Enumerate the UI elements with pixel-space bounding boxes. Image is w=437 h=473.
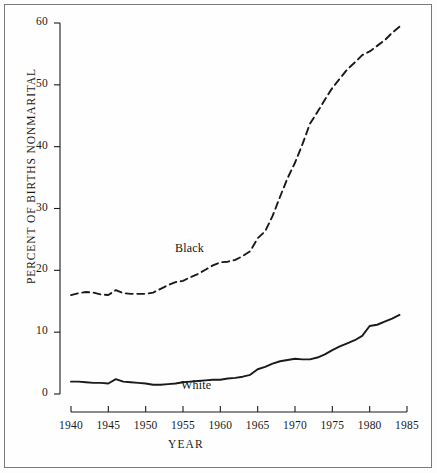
x-tick-label: 1975 [312,419,352,431]
x-tick-label: 1980 [350,419,390,431]
x-tick-label: 1940 [51,419,91,431]
x-axis-title: YEAR [168,438,204,450]
y-tick-label: 10 [18,324,48,336]
x-tick-label: 1970 [275,419,315,431]
figure-canvas: 0102030405060 19401945195019551960196519… [0,0,437,473]
line-chart-plot [0,0,437,473]
axis-lines [54,23,407,412]
x-tick-label: 1960 [200,419,240,431]
y-axis-title: PERCENT OF BIRTHS NONMARITAL [25,61,37,291]
y-tick-label: 0 [18,386,48,398]
series-line-white [71,315,400,385]
series-label-white: White [181,378,211,393]
x-tick-label: 1945 [88,419,128,431]
x-tick-label: 1965 [238,419,278,431]
series-line-black [71,27,400,295]
x-tick-label: 1950 [126,419,166,431]
series-lines [71,27,400,385]
x-tick-label: 1955 [163,419,203,431]
y-tick-label: 60 [18,15,48,27]
series-label-black: Black [175,241,204,256]
x-tick-label: 1985 [387,419,427,431]
